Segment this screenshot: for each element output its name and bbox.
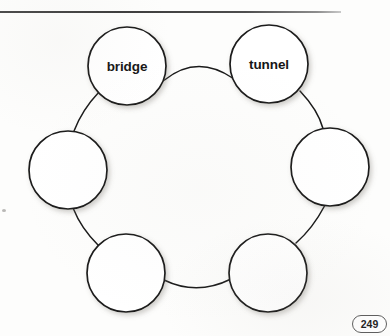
circle-map-diagram bbox=[0, 0, 390, 336]
node-circle-group bbox=[29, 25, 369, 312]
node-label-tunnel: tunnel bbox=[249, 57, 289, 72]
scan-edge-mark bbox=[2, 209, 6, 212]
node-circle-left-blank[interactable] bbox=[29, 131, 107, 209]
connector-upper-right bbox=[300, 91, 323, 129]
node-label-bridge: bridge bbox=[107, 59, 148, 74]
connector-upper-left bbox=[74, 92, 99, 131]
page-number-badge: 249 bbox=[352, 315, 387, 333]
node-circle-bottom-left-blank[interactable] bbox=[87, 234, 165, 312]
node-circle-right-blank[interactable] bbox=[291, 128, 369, 206]
connector-top bbox=[165, 66, 233, 80]
top-horizontal-rule bbox=[0, 11, 341, 13]
worksheet-page: bridge tunnel 249 bbox=[0, 0, 390, 336]
connector-lower-left bbox=[74, 209, 99, 245]
node-circle-bottom-right-blank[interactable] bbox=[229, 234, 307, 312]
connector-lower-right bbox=[296, 206, 325, 243]
connector-bottom bbox=[164, 279, 231, 288]
